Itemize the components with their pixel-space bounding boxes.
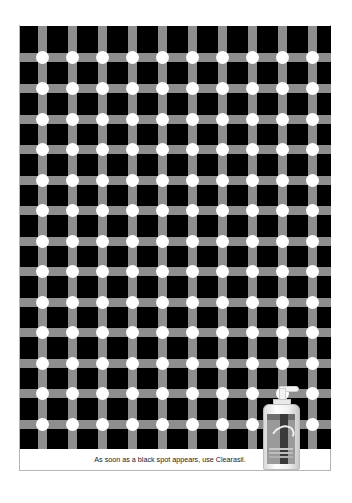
grid-intersection-dot — [276, 113, 289, 126]
grid-intersection-dot — [96, 418, 109, 431]
grid-intersection-dot — [126, 357, 139, 370]
grid-intersection-dot — [186, 204, 199, 217]
grid-intersection-dot — [276, 296, 289, 309]
grid-intersection-dot — [66, 143, 79, 156]
grid-intersection-dot — [186, 265, 199, 278]
grid-intersection-dot — [186, 357, 199, 370]
grid-intersection-dot — [246, 204, 259, 217]
grid-intersection-dot — [246, 296, 259, 309]
grid-intersection-dot — [96, 387, 109, 400]
grid-intersection-dot — [306, 265, 319, 278]
grid-intersection-dot — [96, 51, 109, 64]
grid-intersection-dot — [36, 174, 49, 187]
grid-intersection-dot — [276, 174, 289, 187]
grid-intersection-dot — [246, 387, 259, 400]
grid-intersection-dot — [216, 143, 229, 156]
grid-intersection-dot — [276, 357, 289, 370]
grid-intersection-dot — [306, 113, 319, 126]
grid-intersection-dot — [276, 82, 289, 95]
grid-intersection-dot — [126, 265, 139, 278]
grid-intersection-dot — [126, 51, 139, 64]
grid-intersection-dot — [186, 51, 199, 64]
grid-intersection-dot — [216, 265, 229, 278]
grid-intersection-dot — [66, 326, 79, 339]
grid-intersection-dot — [276, 51, 289, 64]
grid-intersection-dot — [126, 326, 139, 339]
grid-intersection-dot — [156, 82, 169, 95]
grid-intersection-dot — [186, 418, 199, 431]
grid-intersection-dot — [246, 326, 259, 339]
grid-intersection-dot — [306, 174, 319, 187]
grid-intersection-dot — [66, 387, 79, 400]
grid-intersection-dot — [66, 82, 79, 95]
grid-intersection-dot — [276, 326, 289, 339]
grid-intersection-dot — [126, 82, 139, 95]
grid-intersection-dot — [276, 235, 289, 248]
grid-intersection-dot — [306, 143, 319, 156]
grid-intersection-dot — [306, 326, 319, 339]
grid-intersection-dot — [36, 143, 49, 156]
grid-intersection-dot — [186, 235, 199, 248]
grid-intersection-dot — [156, 296, 169, 309]
grid-intersection-dot — [246, 113, 259, 126]
grid-intersection-dot — [66, 204, 79, 217]
grid-intersection-dot — [66, 51, 79, 64]
grid-intersection-dot — [96, 113, 109, 126]
grid-intersection-dot — [276, 265, 289, 278]
grid-intersection-dot — [96, 174, 109, 187]
grid-intersection-dot — [36, 204, 49, 217]
grid-intersection-dot — [216, 51, 229, 64]
grid-intersection-dot — [216, 174, 229, 187]
grid-intersection-dot — [36, 357, 49, 370]
grid-intersection-dot — [276, 204, 289, 217]
grid-intersection-dot — [96, 296, 109, 309]
grid-intersection-dot — [306, 51, 319, 64]
grid-intersection-dot — [186, 174, 199, 187]
grid-intersection-dot — [246, 418, 259, 431]
grid-intersection-dot — [156, 143, 169, 156]
bottle-body — [263, 404, 300, 470]
grid-intersection-dot — [246, 265, 259, 278]
grid-intersection-dot — [156, 204, 169, 217]
grid-intersection-dot — [156, 387, 169, 400]
grid-intersection-dot — [186, 82, 199, 95]
grid-intersection-dot — [156, 51, 169, 64]
grid-intersection-dot — [156, 113, 169, 126]
grid-intersection-dot — [246, 174, 259, 187]
grid-intersection-dot — [306, 296, 319, 309]
swirl-logo-icon — [268, 422, 297, 448]
grid-intersection-dot — [156, 326, 169, 339]
grid-intersection-dot — [156, 174, 169, 187]
grid-intersection-dot — [246, 235, 259, 248]
grid-intersection-dot — [126, 235, 139, 248]
grid-intersection-dot — [216, 82, 229, 95]
product-label — [267, 414, 295, 464]
grid-intersection-dot — [66, 235, 79, 248]
grid-intersection-dot — [156, 235, 169, 248]
grid-intersection-dot — [216, 326, 229, 339]
grid-intersection-dot — [126, 418, 139, 431]
grid-intersection-dot — [246, 51, 259, 64]
grid-intersection-dot — [126, 387, 139, 400]
grid-intersection-dot — [186, 113, 199, 126]
grid-intersection-dot — [66, 265, 79, 278]
clearasil-bottle-image — [263, 386, 303, 470]
grid-intersection-dot — [306, 418, 319, 431]
grid-intersection-dot — [36, 113, 49, 126]
grid-intersection-dot — [216, 418, 229, 431]
grid-intersection-dot — [66, 296, 79, 309]
grid-intersection-dot — [126, 143, 139, 156]
grid-intersection-dot — [156, 357, 169, 370]
grid-intersection-dot — [36, 82, 49, 95]
grid-intersection-dot — [66, 113, 79, 126]
grid-intersection-dot — [36, 387, 49, 400]
grid-intersection-dot — [96, 143, 109, 156]
caption-text: As soon as a black spot appears, use Cle… — [94, 455, 245, 464]
grid-intersection-dot — [186, 296, 199, 309]
grid-intersection-dot — [246, 143, 259, 156]
grid-intersection-dot — [186, 326, 199, 339]
grid-intersection-dot — [156, 265, 169, 278]
grid-intersection-dot — [216, 296, 229, 309]
grid-intersection-dot — [96, 235, 109, 248]
grid-intersection-dot — [276, 143, 289, 156]
